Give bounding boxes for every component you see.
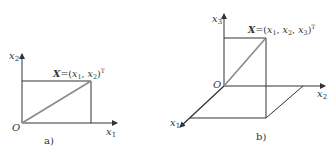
vector-x-diagonal bbox=[224, 39, 265, 86]
x1-axis-label: x1 bbox=[170, 117, 180, 130]
base-right-edge bbox=[266, 86, 303, 118]
panel-a-2d-vector: x2 x1 O X=(x1, x2)T a) bbox=[9, 50, 117, 146]
x1-axis-label: x1 bbox=[106, 126, 116, 139]
caption-a: a) bbox=[44, 135, 54, 146]
panel-b-3d-vector: x3 x2 x1 O X=(x1, x2, x3)T b) bbox=[170, 13, 327, 142]
vector-diagrams: x2 x1 O X=(x1, x2)T a) x3 x2 x1 O X=(x1,… bbox=[0, 0, 335, 155]
x2-axis-label: x2 bbox=[9, 50, 19, 63]
origin-label: O bbox=[213, 79, 221, 90]
vector-equation: X=(x1, x2, x3)T bbox=[247, 23, 315, 37]
x1-axis bbox=[180, 86, 224, 127]
caption-b: b) bbox=[256, 131, 266, 142]
x2-axis-label: x2 bbox=[317, 88, 327, 101]
x3-axis-label: x3 bbox=[212, 13, 222, 26]
origin-label: O bbox=[12, 122, 20, 133]
vector-equation: X=(x1, x2)T bbox=[52, 67, 105, 81]
vector-x-diagonal bbox=[22, 81, 91, 123]
